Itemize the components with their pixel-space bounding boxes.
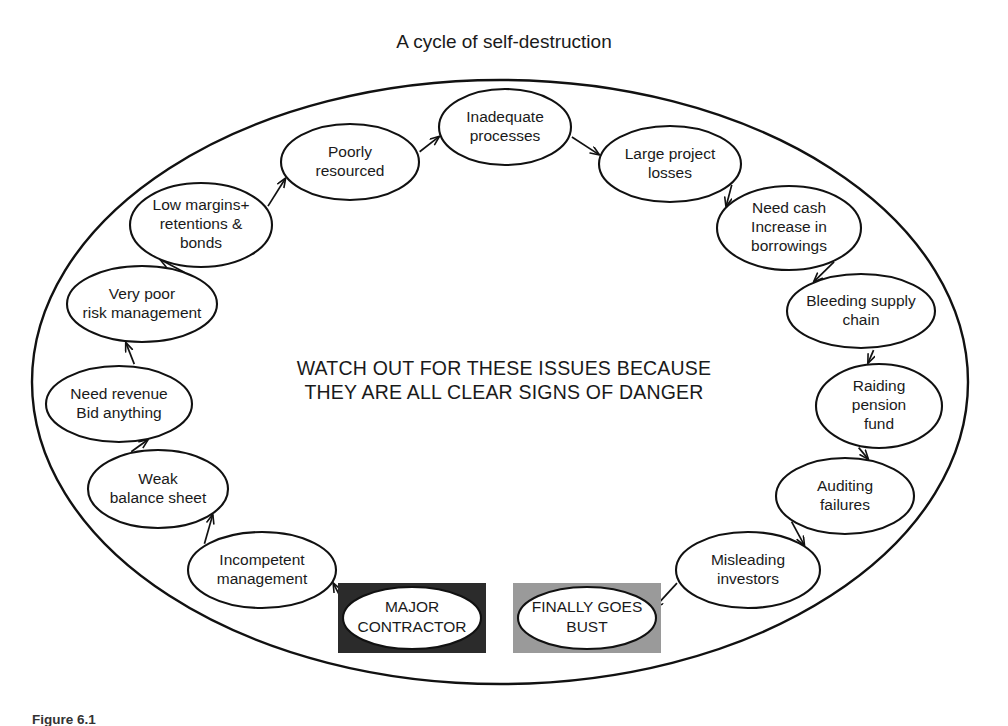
node-label-line: resourced xyxy=(316,162,385,179)
node-label-line: losses xyxy=(648,164,692,181)
cycle-node-very-poor-risk-management: Very poorrisk management xyxy=(67,266,217,342)
arrow-incompetent-to-weak-balance xyxy=(204,515,212,544)
arrow-poorly-to-inadequate xyxy=(420,137,439,152)
center-warning-line-2: THEY ARE ALL CLEAR SIGNS OF DANGER xyxy=(304,381,703,403)
node-label-line: Very poor xyxy=(109,285,175,302)
boxed-nodes-layer: MAJORCONTRACTORFINALLY GOESBUST xyxy=(338,583,661,653)
cycle-node-bleeding-supply-chain: Bleeding supplychain xyxy=(787,274,935,348)
node-label-line: Inadequate xyxy=(466,108,544,125)
node-label-line: bonds xyxy=(180,234,222,251)
node-label-line: management xyxy=(217,570,308,587)
cycle-node-raiding-pension-fund: Raidingpensionfund xyxy=(816,364,942,448)
node-label-line: chain xyxy=(842,311,879,328)
cycle-node-low-margins-retentions-bonds: Low margins+retentions &bonds xyxy=(130,183,272,267)
node-label-line: Large project xyxy=(625,145,716,162)
boxed-node-label-line: CONTRACTOR xyxy=(357,618,466,635)
node-label-line: processes xyxy=(470,127,541,144)
boxed-node-finally-goes-bust: FINALLY GOESBUST xyxy=(513,583,661,653)
center-warning-line-1: WATCH OUT FOR THESE ISSUES BECAUSE xyxy=(297,357,712,379)
arrow-raiding-to-auditing xyxy=(859,448,868,459)
cycle-node-auditing-failures: Auditingfailures xyxy=(776,458,914,534)
cycle-node-need-revenue-bid-anything: Need revenueBid anything xyxy=(46,366,192,442)
node-label-line: Misleading xyxy=(711,551,785,568)
boxed-node-label-line: BUST xyxy=(566,618,608,635)
node-label-line: Raiding xyxy=(853,377,906,394)
cycle-node-need-cash-increase-borrowings: Need cashIncrease inborrowings xyxy=(717,186,861,270)
node-label-line: investors xyxy=(717,570,779,587)
cycle-node-weak-balance-sheet: Weakbalance sheet xyxy=(88,450,228,528)
node-label-line: risk management xyxy=(83,304,203,321)
node-label-line: failures xyxy=(820,496,870,513)
node-label-line: retentions & xyxy=(160,215,243,232)
boxed-node-label-line: MAJOR xyxy=(385,598,439,615)
center-warning-text: WATCH OUT FOR THESE ISSUES BECAUSE THEY … xyxy=(297,357,712,403)
node-label-line: Need cash xyxy=(752,199,826,216)
cycle-nodes-layer: InadequateprocessesLarge projectlossesNe… xyxy=(46,89,942,608)
node-label-line: fund xyxy=(864,415,894,432)
page-title: A cycle of self-destruction xyxy=(396,31,611,52)
cycle-node-inadequate-processes: Inadequateprocesses xyxy=(439,89,571,165)
node-label-line: balance sheet xyxy=(110,489,207,506)
boxed-node-major-contractor: MAJORCONTRACTOR xyxy=(338,583,486,653)
node-label-line: borrowings xyxy=(751,237,827,254)
cycle-node-incompetent-management: Incompetentmanagement xyxy=(188,532,336,608)
node-label-line: Weak xyxy=(138,470,178,487)
cycle-node-misleading-investors: Misleadinginvestors xyxy=(676,532,820,608)
node-label-line: Incompetent xyxy=(219,551,305,568)
cycle-node-large-project-losses: Large projectlosses xyxy=(599,126,741,202)
arrow-need-revenue-to-very-poor-risk xyxy=(126,343,134,364)
node-label-line: Auditing xyxy=(817,477,873,494)
arrow-inadequate-to-large-project xyxy=(572,137,599,155)
node-label-line: Bleeding supply xyxy=(806,292,916,309)
node-label-line: Bid anything xyxy=(76,404,161,421)
figure-caption: Figure 6.1 xyxy=(32,712,96,726)
figure-root: A cycle of self-destruction MAJORCONTRAC… xyxy=(0,0,1008,726)
cycle-diagram: A cycle of self-destruction MAJORCONTRAC… xyxy=(0,0,1008,726)
node-label-line: pension xyxy=(852,396,906,413)
arrow-low-margins-to-poorly xyxy=(268,178,285,206)
boxed-node-label-line: FINALLY GOES xyxy=(532,598,643,615)
cycle-node-poorly-resourced: Poorlyresourced xyxy=(281,124,419,200)
arrow-bleeding-to-raiding xyxy=(868,350,874,363)
node-label-line: Need revenue xyxy=(70,385,167,402)
node-label-line: Poorly xyxy=(328,143,372,160)
node-label-line: Low margins+ xyxy=(153,196,250,213)
node-label-line: Increase in xyxy=(751,218,827,235)
